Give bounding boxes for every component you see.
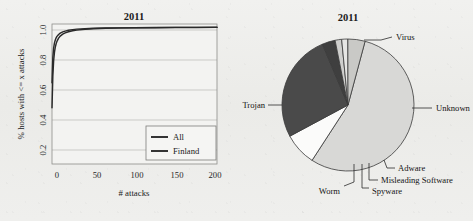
pie-slices (282, 39, 414, 171)
x-tick-0: 0 (55, 170, 59, 180)
pie-label-spyware: Spyware (372, 186, 402, 196)
x-axis-label: # attacks (118, 188, 150, 198)
y-tick-0-8: 0.8 (38, 55, 48, 66)
pie-label-adware: Adware (398, 163, 425, 173)
legend-label-finland[interactable]: Finland (173, 146, 200, 156)
x-tick-50: 50 (93, 170, 102, 180)
pie-label-misleading-software: Misleading Software (381, 175, 453, 185)
pie-label-worm: Worm (319, 186, 341, 196)
pie-chart-title: 2011 (338, 12, 358, 23)
figure-container: 2011 1.0 0.8 0.6 0.4 0.2 % hosts with <=… (0, 0, 473, 221)
pie-label-unknown: Unknown (436, 103, 471, 113)
line-chart-panel: 2011 1.0 0.8 0.6 0.4 0.2 % hosts with <=… (0, 0, 237, 221)
x-tick-200: 200 (209, 170, 222, 180)
y-tick-0-2: 0.2 (38, 145, 48, 156)
legend[interactable]: All Finland (146, 126, 216, 160)
leader-adware (384, 160, 395, 168)
y-axis-label: % hosts with <= x attacks (16, 48, 26, 139)
y-tick-1-0: 1.0 (38, 25, 48, 36)
y-tick-0-6: 0.6 (38, 84, 48, 95)
line-chart-title: 2011 (124, 11, 144, 22)
x-tick-100: 100 (131, 170, 144, 180)
pie-label-virus: Virus (396, 32, 415, 42)
pie-label-trojan: Trojan (242, 100, 265, 110)
pie-chart-panel: 2011 Virus Unknown Adware Misleading Sof… (236, 0, 473, 221)
legend-label-all[interactable]: All (173, 132, 185, 142)
pie-chart-svg: 2011 Virus Unknown Adware Misleading Sof… (236, 0, 473, 221)
leader-virus (364, 37, 392, 40)
line-chart-svg: 2011 1.0 0.8 0.6 0.4 0.2 % hosts with <=… (0, 0, 237, 221)
y-tick-0-4: 0.4 (38, 114, 48, 125)
x-tick-150: 150 (171, 170, 184, 180)
